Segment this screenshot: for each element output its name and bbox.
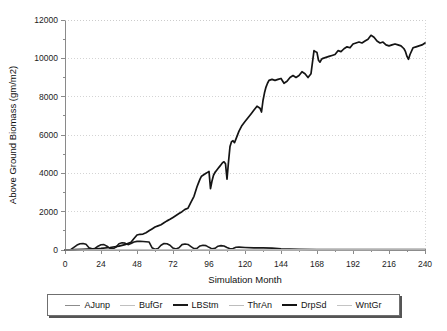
x-tick-label: 216	[382, 259, 396, 269]
legend-swatch-drpsd	[282, 304, 297, 306]
y-tick-label: 8000	[39, 92, 58, 102]
y-tick-label: 12000	[34, 15, 58, 25]
legend-item-ajunp[interactable]: AJunp	[65, 300, 110, 310]
tick-marks	[61, 20, 425, 254]
x-tick-label: 0	[63, 259, 68, 269]
legend-label: BufGr	[139, 300, 163, 310]
chart-figure: 024487296120144168192216240 020004000600…	[0, 0, 447, 331]
legend-label: DrpSd	[301, 300, 327, 310]
x-tick-label: 168	[310, 259, 324, 269]
x-tick-label: 48	[132, 259, 142, 269]
legend-item-bufgr[interactable]: BufGr	[120, 300, 163, 310]
legend-swatch-bufgr	[120, 305, 135, 306]
x-tick-label: 24	[96, 259, 106, 269]
x-tick-label: 144	[274, 259, 288, 269]
legend-label: WntGr	[356, 300, 382, 310]
y-tick-label: 0	[53, 245, 58, 255]
y-tick-label: 10000	[34, 53, 58, 63]
legend-label: AJunp	[84, 300, 110, 310]
y-axis-title: Above Ground Biomass (gm/m2)	[7, 66, 18, 204]
legend-swatch-lbstm	[173, 304, 188, 306]
legend-item-wntgr[interactable]: WntGr	[337, 300, 382, 310]
y-tick-labels: 020004000600080001000012000	[34, 15, 58, 255]
legend-swatch-ajunp	[65, 305, 80, 306]
y-tick-label: 6000	[39, 130, 58, 140]
series-line-drpsd	[65, 35, 425, 250]
chart-legend: AJunpBufGrLBStmThrAnDrpSdWntGr	[47, 294, 400, 316]
x-tick-labels: 024487296120144168192216240	[63, 259, 433, 269]
x-tick-label: 96	[204, 259, 214, 269]
x-axis-title: Simulation Month	[208, 274, 281, 285]
biomass-line-chart: 024487296120144168192216240 020004000600…	[0, 0, 447, 290]
legend-swatch-wntgr	[337, 305, 352, 306]
y-tick-label: 4000	[39, 168, 58, 178]
y-tick-label: 2000	[39, 207, 58, 217]
gridlines	[65, 20, 425, 212]
legend-swatch-thran	[229, 305, 244, 306]
legend-item-thran[interactable]: ThrAn	[229, 300, 273, 310]
legend-item-lbstm[interactable]: LBStm	[173, 300, 219, 310]
x-tick-label: 192	[346, 259, 360, 269]
data-series	[65, 35, 425, 250]
legend-item-drpsd[interactable]: DrpSd	[282, 300, 327, 310]
x-tick-label: 240	[418, 259, 432, 269]
legend-label: ThrAn	[248, 300, 273, 310]
x-tick-label: 72	[168, 259, 178, 269]
legend-label: LBStm	[192, 300, 219, 310]
x-tick-label: 120	[238, 259, 252, 269]
